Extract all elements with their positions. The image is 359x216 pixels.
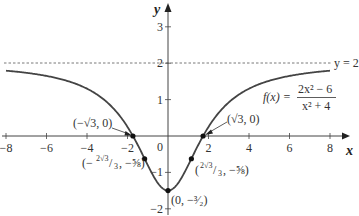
marked-point [189, 156, 194, 161]
label-neg-sqrt3: (−√3, 0) [73, 116, 112, 130]
x-tick-label: 2 [206, 141, 212, 155]
fraction-slash: / [213, 163, 217, 177]
x-tick-label: 8 [327, 141, 333, 155]
function-denominator: x² + 4 [302, 99, 330, 113]
function-graph: y = 2 x y −8−6−4−22468 −2−1123 0 f(x) = … [0, 0, 359, 216]
x-axis-label: x [345, 143, 353, 158]
y-tick-label: 2 [157, 56, 163, 70]
y-axis-label: y [152, 2, 161, 17]
marked-point [200, 133, 205, 138]
x-tick-label: −2 [121, 141, 134, 155]
x-tick-label: −8 [0, 141, 12, 155]
function-lhs: f(x) = [263, 90, 291, 104]
label-pos-inflection: ( 2√3 / 3 , −⅝) [195, 161, 249, 178]
paren-open: (− [82, 156, 93, 170]
x-tick-label: 4 [246, 141, 252, 155]
x-axis-arrow-icon [342, 133, 350, 140]
label-minimum: (0, −³⁄₂) [171, 193, 208, 207]
x-tick-label: −6 [40, 141, 53, 155]
x-tick-label: 6 [287, 141, 293, 155]
fraction-slash: / [109, 156, 113, 170]
marked-point [165, 188, 170, 193]
y-tick-label: 3 [157, 20, 163, 34]
y-tick-label: −2 [150, 202, 163, 216]
label-pos-sqrt3: (√3, 0) [227, 112, 260, 126]
x-tick-label: −4 [81, 141, 94, 155]
label-neg-inflection: (− 2√3 / 3 , −⅝) [82, 154, 145, 171]
y-value: , −⅝) [119, 156, 145, 170]
function-label: f(x) = 2x² − 6 x² + 4 [263, 82, 336, 113]
fraction-numerator: 2√3 [200, 161, 212, 170]
y-value: , −⅝) [223, 163, 249, 177]
fraction-denominator: 3 [218, 169, 222, 178]
asymptote-label: y = 2 [334, 56, 359, 70]
y-axis-arrow-icon [165, 3, 172, 12]
function-numerator: 2x² − 6 [298, 82, 332, 96]
paren-open: ( [195, 163, 199, 177]
y-tick-label: 1 [157, 93, 163, 107]
origin-label: 0 [157, 140, 163, 154]
fraction-numerator: 2√3 [96, 154, 108, 163]
fraction-denominator: 3 [114, 162, 118, 171]
marked-point [130, 133, 135, 138]
